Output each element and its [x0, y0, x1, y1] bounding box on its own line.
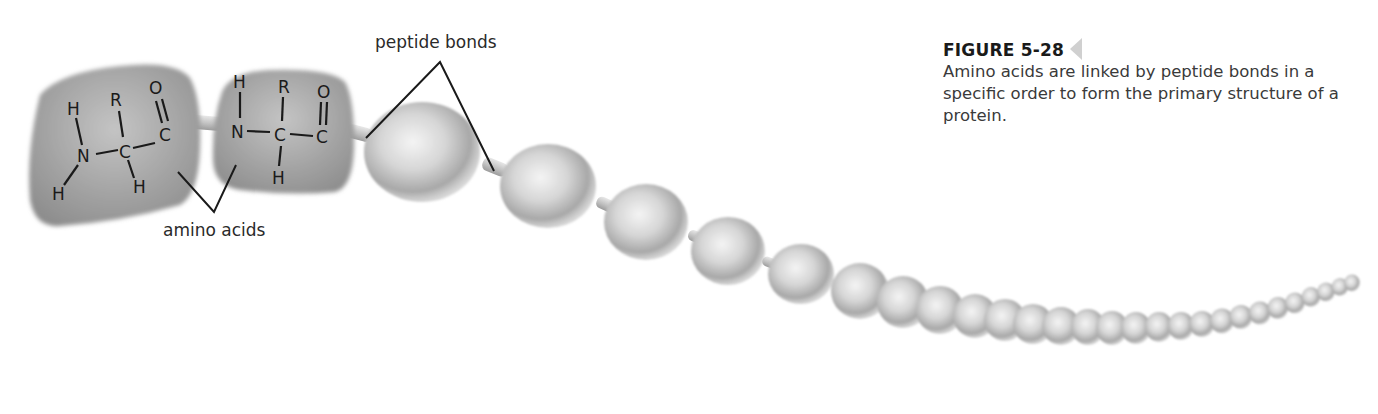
amino-acid-bead — [604, 184, 688, 260]
atom-c-alpha: C — [274, 125, 286, 145]
atom-r: R — [278, 77, 290, 97]
atom-n: N — [77, 146, 90, 166]
figure-marker-icon — [1070, 38, 1082, 60]
figure-caption-text: Amino acids are linked by peptide bonds … — [943, 61, 1348, 127]
atom-h: H — [233, 72, 246, 92]
atom-h: H — [67, 99, 80, 119]
atom-c-alpha: C — [119, 142, 131, 162]
atom-h: H — [52, 184, 65, 204]
atom-o: O — [149, 78, 162, 98]
amino-acid-bead — [1249, 302, 1271, 325]
atom-r: R — [110, 90, 122, 110]
figure-number: FIGURE 5-28 — [943, 40, 1064, 60]
atom-h: H — [133, 177, 146, 197]
peptide-bonds-label: peptide bonds — [375, 32, 497, 52]
amino-acid-bead — [768, 244, 834, 304]
figure-caption: FIGURE 5-28 Amino acids are linked by pe… — [943, 38, 1363, 127]
amino-acid-bead — [1230, 305, 1253, 329]
amino-acid-bead — [691, 217, 765, 285]
atom-n: N — [231, 122, 244, 142]
amino-acid-bead — [364, 102, 480, 202]
amino-acid-bead — [1344, 275, 1360, 292]
amino-acids-label: amino acids — [163, 220, 265, 240]
amino-acid-chain — [364, 102, 1360, 345]
atom-h: H — [272, 168, 285, 188]
atom-c-carbonyl: C — [159, 125, 171, 145]
amino-acid-block-1: H N H R C H O C — [29, 65, 200, 227]
amino-acid-bead — [500, 144, 596, 228]
amino-acid-block-2: H N R C H O C — [213, 70, 354, 194]
atom-c-carbonyl: C — [316, 127, 328, 147]
atom-o: O — [317, 82, 330, 102]
